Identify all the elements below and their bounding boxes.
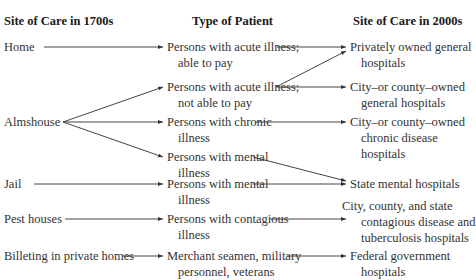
patient-line2: illness <box>167 192 268 208</box>
site-billeting: Billeting in private homes <box>4 248 134 264</box>
patient-line1: Persons with acute illness; <box>167 80 299 94</box>
site-almshouse: Almshouse <box>4 114 60 130</box>
site2000-city-chronic: City–or county–owned chronic disease hos… <box>350 114 465 162</box>
site2000-line1: City, county, and state <box>342 199 453 213</box>
arrow-almshouse-mental <box>63 122 163 157</box>
patient-merchant: Merchant seamen, military personnel, vet… <box>167 248 301 280</box>
patient-contagious: Persons with contagious illness <box>167 211 289 243</box>
patient-line1: Persons with acute illness; <box>167 40 299 54</box>
patient-line1: Persons with chronic <box>167 115 272 129</box>
site2000-line1: State mental hospitals <box>350 177 460 191</box>
patient-line1: Merchant seamen, military <box>167 249 301 263</box>
patient-line1: Persons with contagious <box>167 212 289 226</box>
patient-line2: able to pay <box>167 55 299 71</box>
site2000-line1: City–or county–owned <box>350 115 465 129</box>
arrow-almshouse-acute-nopay <box>63 87 163 122</box>
site-jail: Jail <box>4 176 21 192</box>
patient-line2: not able to pay <box>167 95 299 111</box>
site-home: Home <box>4 39 35 55</box>
site2000-federal: Federal government hospitals <box>350 248 450 280</box>
site2000-line2: contagious disease and <box>342 214 476 230</box>
header-sites-2000s: Site of Care in 2000s <box>353 14 463 29</box>
site2000-line2: hospitals <box>350 264 450 280</box>
site-pest-houses: Pest houses <box>4 211 62 227</box>
site2000-line2: chronic disease <box>350 130 465 146</box>
patient-line2: personnel, veterans <box>167 264 301 280</box>
site2000-line1: Federal government <box>350 249 450 263</box>
site2000-private: Privately owned general hospitals <box>350 39 471 71</box>
patient-chronic: Persons with chronic illness <box>167 114 272 146</box>
site2000-city-general: City–or county–owned general hospitals <box>350 79 465 111</box>
site2000-line1: City–or county–owned <box>350 80 465 94</box>
site2000-line3: hospitals <box>350 146 465 162</box>
site2000-line3: tuberculosis hospitals <box>342 230 476 246</box>
patient-acute-pay: Persons with acute illness; able to pay <box>167 39 299 71</box>
patient-line1: Persons with mental <box>167 177 268 191</box>
site2000-state-mental: State mental hospitals <box>350 176 460 192</box>
patient-line2: illness <box>167 130 272 146</box>
patient-acute-nopay: Persons with acute illness; not able to … <box>167 79 299 111</box>
header-patient-type: Type of Patient <box>192 14 273 29</box>
site2000-line2: general hospitals <box>350 95 465 111</box>
patient-mental-jail: Persons with mental illness <box>167 176 268 208</box>
patient-line2: illness <box>167 227 289 243</box>
header-sites-1700s: Site of Care in 1700s <box>4 14 114 29</box>
site2000-line2: hospitals <box>350 55 471 71</box>
site2000-contagious: City, county, and state contagious disea… <box>342 198 476 246</box>
site2000-line1: Privately owned general <box>350 40 471 54</box>
patient-line1: Persons with mental <box>167 150 268 164</box>
